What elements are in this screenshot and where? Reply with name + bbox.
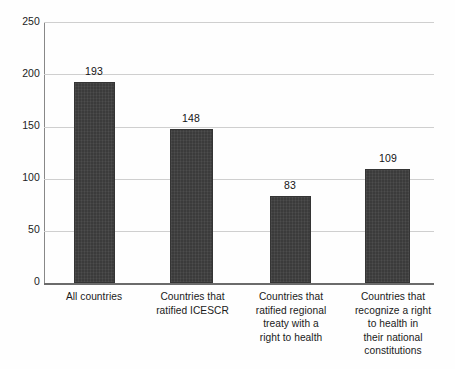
bar-national-constitutions[interactable] [365,169,410,283]
y-tick-label-100: 100 [2,172,40,183]
y-tick-label-200: 200 [2,68,40,79]
bar-chart: 250 200 150 100 50 0 193 148 83 109 All … [0,0,455,369]
bar-ratified-regional-treaty[interactable] [270,196,311,283]
gridline-250 [44,22,434,23]
category-label-ratified-icescr: Countries that ratified ICESCR [141,290,244,317]
y-axis-tick-labels: 250 200 150 100 50 0 [0,0,40,369]
bar-value-ratified-regional-treaty: 83 [250,179,330,191]
category-line: All countries [44,290,144,304]
category-line: recognize a right [340,304,446,318]
bar-value-ratified-icescr: 148 [151,112,231,124]
category-line: treaty with a [242,317,340,331]
category-line: constitutions [340,344,446,358]
x-axis-line [44,283,434,285]
y-tick-label-250: 250 [2,16,40,27]
y-tick-label-50: 50 [2,224,40,235]
category-label-all-countries: All countries [44,290,144,304]
category-line: to health in [340,317,446,331]
category-line: Countries that [141,290,244,304]
category-line: their national [340,331,446,345]
y-tick-label-0: 0 [2,276,40,287]
category-line: ratified ICESCR [141,304,244,318]
bar-all-countries[interactable] [74,82,115,283]
bar-ratified-icescr[interactable] [170,129,213,283]
category-line: right to health [242,331,340,345]
category-line: Countries that [340,290,446,304]
bar-value-national-constitutions: 109 [348,152,428,164]
category-label-ratified-regional-treaty: Countries that ratified regional treaty … [242,290,340,344]
bar-value-all-countries: 193 [54,65,134,77]
y-tick-label-150: 150 [2,120,40,131]
category-line: Countries that [242,290,340,304]
category-label-national-constitutions: Countries that recognize a right to heal… [340,290,446,358]
category-line: ratified regional [242,304,340,318]
